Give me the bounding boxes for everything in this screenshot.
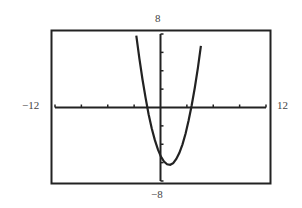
plot-area: [0, 0, 302, 208]
axes: [55, 34, 266, 181]
parabola-path: [136, 36, 201, 165]
parabola-curve: [136, 36, 201, 165]
